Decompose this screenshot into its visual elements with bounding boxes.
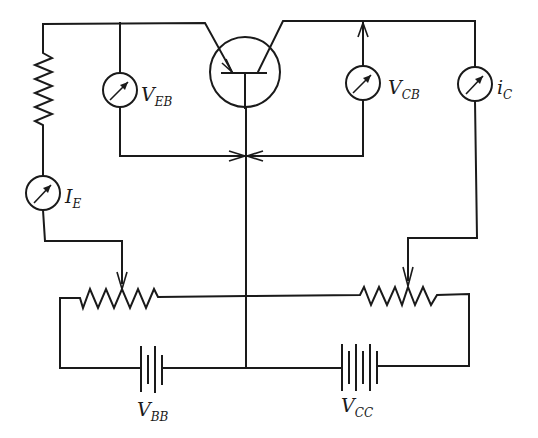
ic-label: iC (497, 76, 512, 102)
vcb-label: VCB (388, 76, 420, 102)
meter-ie: IE (26, 176, 122, 283)
top-left-wire (43, 23, 232, 72)
vcc-label: VCC (341, 394, 373, 420)
top-right-wire (258, 21, 475, 72)
meter-needle-icon (34, 185, 51, 203)
meter-ic: iC (408, 67, 512, 280)
circuit-diagram: VEB VCB (0, 0, 538, 438)
meter-veb: VEB (103, 23, 172, 156)
vbb-label: VBB (137, 398, 169, 424)
bottom-wire (60, 366, 469, 368)
veb-label: VEB (141, 83, 172, 109)
emitter-resistor (35, 50, 52, 176)
meter-needle-icon (353, 75, 371, 93)
transistor (210, 37, 280, 108)
meter-needle-icon (110, 82, 128, 100)
emitter-arrow-icon (222, 59, 232, 72)
pot-right (246, 267, 469, 366)
base-junction (120, 108, 363, 368)
battery-vcc: VCC (341, 345, 377, 420)
battery-vbb: VBB (137, 347, 169, 424)
ie-label: IE (64, 185, 82, 211)
meter-needle-icon (466, 76, 483, 94)
meter-vcb: VCB (346, 21, 420, 156)
pot-left (60, 272, 246, 368)
